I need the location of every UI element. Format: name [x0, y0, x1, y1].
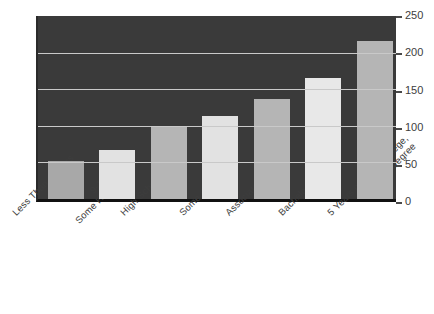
plot-area	[36, 16, 396, 202]
y-tick-mark-200	[396, 53, 402, 55]
y-tick-label-250: 250	[405, 10, 423, 21]
y-tick-label-150: 150	[405, 85, 423, 96]
bar-high-school-degree[interactable]	[151, 126, 187, 199]
y-tick-mark-250	[396, 16, 402, 18]
gridline-200	[38, 53, 396, 54]
y-tick-mark-150	[396, 91, 402, 93]
bar-associates-degree[interactable]	[254, 99, 290, 199]
bar-less-than-9-years[interactable]	[48, 161, 84, 199]
bar-some-college[interactable]	[202, 116, 238, 199]
y-tick-label-50: 50	[405, 159, 417, 170]
y-tick-mark-100	[396, 128, 402, 130]
x-axis-labels: Less Than 9 Years 9-12 Years, Some High …	[0, 202, 434, 314]
bar-chart: 250 200 150 100 50 0 Less Than 9 Years 9…	[0, 0, 434, 314]
y-tick-label-100: 100	[405, 122, 423, 133]
gridline-150	[38, 89, 396, 90]
bar-5-years-or-more-college[interactable]	[357, 41, 393, 199]
y-axis: 250 200 150 100 50 0	[396, 0, 434, 210]
y-tick-label-200: 200	[405, 47, 423, 58]
bar-9-12-years[interactable]	[99, 150, 135, 199]
bar-bachelors-degree[interactable]	[305, 78, 341, 199]
